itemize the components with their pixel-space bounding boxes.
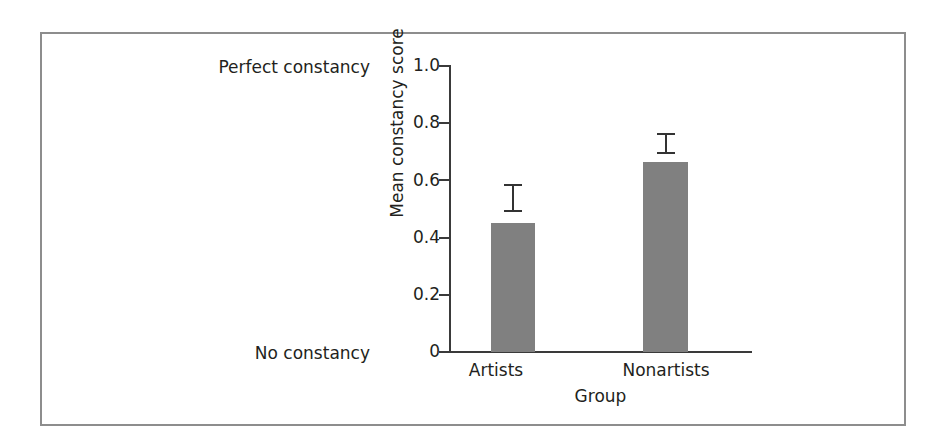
y-tick-0-2 — [439, 294, 449, 296]
errorbar-cap-lower — [504, 210, 522, 212]
annotation-perfect-constancy: Perfect constancy — [160, 57, 370, 77]
errorbar-line — [665, 133, 667, 152]
x-category-label-artists: Artists — [431, 360, 561, 380]
x-axis-title: Group — [449, 386, 752, 406]
y-tick-0-6 — [439, 179, 449, 181]
chart-figure: 1.0 0.8 0.6 0.4 0.2 0 Artists Nonartists… — [0, 0, 944, 448]
x-category-label-nonartists: Nonartists — [601, 360, 731, 380]
errorbar-cap-lower — [657, 152, 675, 154]
plot-area — [449, 66, 752, 352]
y-tick-label-0-4: 0.4 — [413, 229, 440, 246]
errorbar-cap-upper — [504, 184, 522, 186]
bar-artists — [491, 223, 535, 352]
y-tick-label-0: 0 — [429, 343, 440, 360]
annotation-no-constancy: No constancy — [160, 343, 370, 363]
y-tick-0 — [439, 351, 449, 353]
y-tick-0-4 — [439, 237, 449, 239]
errorbar-nonartists — [643, 143, 688, 162]
y-tick-1-0 — [439, 65, 449, 67]
y-tick-0-8 — [439, 122, 449, 124]
y-tick-label-1-0: 1.0 — [413, 57, 440, 74]
y-tick-label-0-6: 0.6 — [413, 172, 440, 189]
y-tick-label-0-2: 0.2 — [413, 286, 440, 303]
y-axis-title: Mean constancy score — [387, 23, 407, 223]
bar-nonartists — [643, 162, 688, 352]
errorbar-artists — [491, 197, 535, 223]
errorbar-cap-upper — [657, 133, 675, 135]
y-tick-label-0-8: 0.8 — [413, 114, 440, 131]
errorbar-line — [512, 184, 514, 210]
